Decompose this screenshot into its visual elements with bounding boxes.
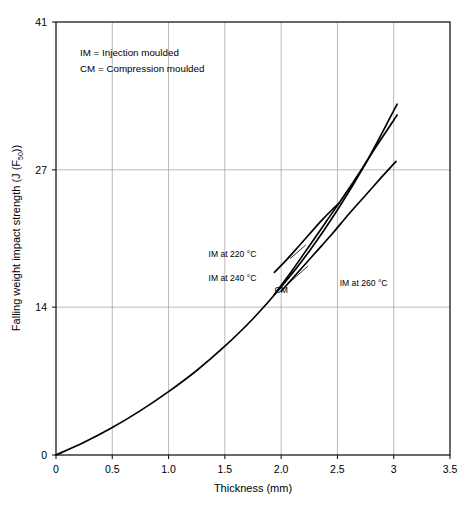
y-axis-title-tail: )) xyxy=(10,145,22,152)
y-axis-title: Falling weight impact strength (J (F50)) xyxy=(10,145,24,331)
y-tick-label: 41 xyxy=(35,16,47,28)
x-tick-label: 1.0 xyxy=(161,463,176,475)
y-axis-title-subscript: 50 xyxy=(17,152,24,160)
x-tick-label: 0.5 xyxy=(105,463,120,475)
x-tick-label: 1.5 xyxy=(218,463,233,475)
y-tick-label: 0 xyxy=(41,449,47,461)
note-line: IM = Injection moulded xyxy=(80,47,179,58)
chart-container: 00.51.01.52.02.533.5 0142741 CMIM at 220… xyxy=(0,0,475,509)
y-axis-title-main: Falling weight impact strength (J (F xyxy=(10,160,22,331)
x-tick-label: 0 xyxy=(53,463,59,475)
x-tick-label: 2.5 xyxy=(330,463,345,475)
series-label-im-at-220-c: IM at 220 °C xyxy=(209,249,257,259)
y-tick-label: 27 xyxy=(35,164,47,176)
series-label-cm: CM xyxy=(274,285,287,295)
x-tick-label: 2.0 xyxy=(274,463,289,475)
x-axis-title: Thickness (mm) xyxy=(214,482,292,494)
x-tick-label: 3.5 xyxy=(443,463,458,475)
y-tick-label: 14 xyxy=(35,301,47,313)
y-axis-title-group: Falling weight impact strength (J (F50)) xyxy=(10,145,24,331)
x-tick-label: 3 xyxy=(391,463,397,475)
note-line: CM = Compression moulded xyxy=(80,63,204,74)
series-label-im-at-240-c: IM at 240 °C xyxy=(209,273,257,283)
series-label-im-at-260-c: IM at 260 °C xyxy=(340,278,388,288)
falling-weight-impact-strength-chart: 00.51.01.52.02.533.5 0142741 CMIM at 220… xyxy=(0,0,475,509)
